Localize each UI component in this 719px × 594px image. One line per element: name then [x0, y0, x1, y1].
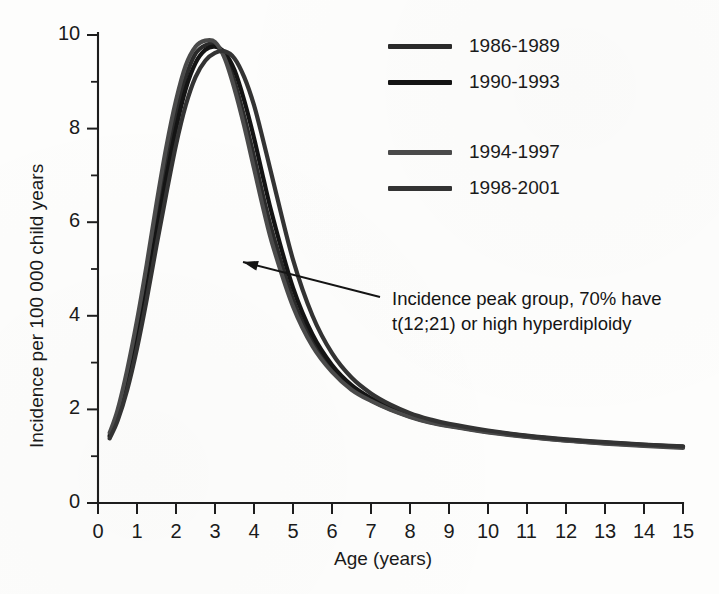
y-tick-label: 6: [69, 209, 80, 232]
legend-swatch: [388, 186, 452, 191]
y-axis-title: Incidence per 100 000 child years: [26, 164, 48, 448]
y-tick-label: 4: [69, 303, 80, 326]
annotation-line-1: Incidence peak group, 70% have: [392, 286, 661, 311]
legend-item[interactable]: 1994-1997: [388, 134, 618, 170]
x-tick-label: 9: [444, 520, 455, 543]
x-tick-label: 15: [672, 520, 694, 543]
legend-swatch: [388, 44, 452, 49]
x-tick-label: 12: [555, 520, 577, 543]
x-tick-label: 11: [516, 520, 537, 543]
legend-label: 1994-1997: [469, 141, 560, 163]
x-tick-label: 13: [594, 520, 616, 543]
y-axis-ticks: [87, 35, 98, 503]
peak-group-annotation: Incidence peak group, 70% have t(12;21) …: [392, 286, 661, 336]
x-tick-label: 7: [366, 520, 377, 543]
x-tick-label: 14: [633, 520, 655, 543]
x-tick-label: 10: [477, 520, 499, 543]
x-tick-label: 4: [249, 520, 260, 543]
y-tick-label: 2: [69, 396, 80, 419]
x-tick-label: 5: [288, 520, 299, 543]
legend-label: 1990-1993: [469, 71, 560, 93]
legend-label: 1998-2001: [469, 177, 560, 199]
x-tick-label: 6: [327, 520, 338, 543]
callout-arrow: [243, 261, 380, 297]
y-tick-label: 10: [58, 22, 80, 45]
legend-item[interactable]: 1986-1989: [388, 28, 618, 64]
chart-figure: 0246810 0123456789101112131415 Incidence…: [0, 0, 719, 594]
legend-swatch: [388, 80, 452, 85]
annotation-line-2: t(12;21) or high hyperdiploidy: [392, 311, 661, 336]
x-tick-label: 1: [132, 520, 143, 543]
x-axis-title: Age (years): [334, 548, 432, 570]
x-tick-label: 2: [171, 520, 182, 543]
legend-swatch: [388, 150, 452, 155]
x-tick-label: 0: [93, 520, 104, 543]
y-tick-label: 8: [69, 116, 80, 139]
legend-item[interactable]: 1990-1993: [388, 64, 618, 100]
y-tick-label: 0: [69, 490, 80, 513]
legend-item[interactable]: 1998-2001: [388, 170, 618, 206]
legend-label: 1986-1989: [469, 35, 560, 57]
x-axis-ticks: [98, 503, 683, 514]
x-tick-label: 8: [405, 520, 416, 543]
x-tick-label: 3: [210, 520, 221, 543]
legend: 1986-19891990-19931994-19971998-2001: [388, 28, 618, 206]
